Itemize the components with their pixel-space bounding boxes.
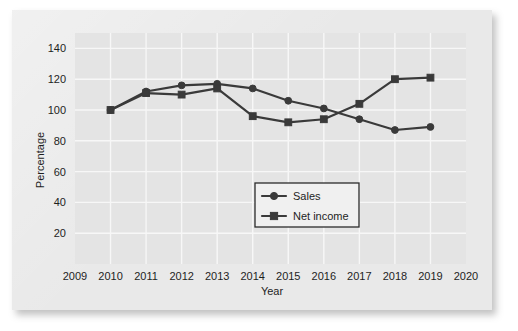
data-point-square	[427, 74, 434, 81]
data-point-square	[320, 116, 327, 123]
data-point-circle	[356, 116, 363, 123]
y-tick-label: 40	[54, 196, 66, 208]
x-tick-label: 2015	[276, 270, 300, 282]
x-tick-label: 2011	[134, 270, 158, 282]
legend-label: Sales	[293, 190, 321, 202]
x-tick-label: 2014	[240, 270, 264, 282]
data-point-circle	[249, 85, 256, 92]
x-tick-label: 2010	[98, 270, 122, 282]
legend-label: Net income	[293, 210, 349, 222]
plot-area-background	[75, 33, 466, 264]
x-tick-label: 2012	[169, 270, 193, 282]
plot-background	[75, 33, 466, 264]
data-point-square	[107, 107, 114, 114]
data-point-square	[392, 76, 399, 83]
data-point-circle	[285, 97, 292, 104]
data-point-square	[356, 100, 363, 107]
data-point-circle	[320, 105, 327, 112]
y-tick-label: 20	[54, 227, 66, 239]
y-tick-label: 120	[48, 73, 66, 85]
data-point-square	[285, 119, 292, 126]
data-point-circle	[427, 124, 434, 131]
data-point-square	[249, 113, 256, 120]
y-tick-label: 140	[48, 42, 66, 54]
x-tick-label: 2017	[347, 270, 371, 282]
x-tick-label: 2018	[383, 270, 407, 282]
legend-marker-square	[270, 212, 277, 219]
y-axis-title: Percentage	[34, 132, 46, 188]
x-tick-label: 2013	[205, 270, 229, 282]
y-tick-label: 80	[54, 135, 66, 147]
legend-marker-circle	[270, 192, 277, 199]
data-point-square	[143, 90, 150, 97]
data-point-circle	[392, 127, 399, 134]
x-tick-label: 2020	[454, 270, 478, 282]
data-point-square	[178, 91, 185, 98]
x-tick-label: 2009	[63, 270, 87, 282]
x-tick-label: 2016	[312, 270, 336, 282]
chart-svg: 20406080100120140 2009201020112012201320…	[0, 0, 518, 331]
line-chart-figure: 20406080100120140 2009201020112012201320…	[0, 0, 518, 331]
data-point-square	[214, 85, 221, 92]
chart-legend: SalesNet income	[255, 183, 359, 227]
y-tick-label: 100	[48, 104, 66, 116]
x-axis-title: Year	[261, 285, 284, 297]
y-axis-tick-labels: 20406080100120140	[48, 42, 66, 239]
x-axis-tick-labels: 2009201020112012201320142015201620172018…	[63, 270, 478, 282]
x-tick-label: 2019	[418, 270, 442, 282]
y-tick-label: 60	[54, 166, 66, 178]
data-point-circle	[178, 82, 185, 89]
